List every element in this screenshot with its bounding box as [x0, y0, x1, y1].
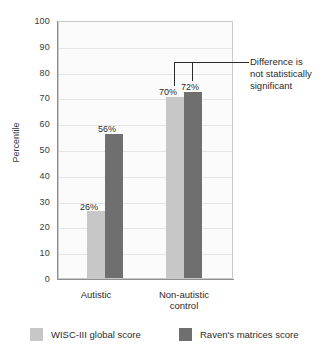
- gridline-10: [59, 254, 232, 255]
- bracket-drop-left: [174, 62, 175, 86]
- y-axis-line: [57, 21, 58, 280]
- plot-area: [58, 21, 233, 279]
- annotation-line-1: Difference is: [250, 56, 328, 68]
- gridline-20: [59, 228, 232, 229]
- category-label-control: Non-autistic control: [142, 289, 226, 311]
- y-tick-10: 10: [8, 249, 50, 258]
- bar-control-wisc: [166, 97, 184, 278]
- gridline-40: [59, 177, 232, 178]
- bar-value-control-ravens: 72%: [181, 83, 199, 92]
- y-tick-80: 80: [8, 69, 50, 78]
- bar-control-ravens: [184, 92, 202, 278]
- legend-swatch-wisc-icon: [30, 328, 43, 341]
- y-tick-70: 70: [8, 94, 50, 103]
- legend: WISC-III global score Raven's matrices s…: [30, 328, 320, 346]
- y-axis-label: Percentile: [12, 108, 21, 178]
- gridline-90: [59, 48, 232, 49]
- bar-group-autistic: [87, 22, 123, 278]
- y-tick-30: 30: [8, 198, 50, 207]
- bar-autistic-wisc: [87, 211, 105, 278]
- legend-label-ravens: Raven's matrices score: [200, 328, 298, 341]
- significance-annotation: Difference is not statistically signific…: [250, 56, 328, 92]
- y-tick-90: 90: [8, 43, 50, 52]
- bar-value-autistic-ravens: 56%: [98, 125, 116, 134]
- legend-item-wisc[interactable]: WISC-III global score: [30, 328, 141, 341]
- y-tick-0: 0: [8, 275, 50, 284]
- percentile-bar-chart: 100 90 80 70 60 50 40 30 20 10 0 Percent…: [0, 0, 328, 358]
- bar-value-autistic-wisc: 26%: [80, 203, 98, 212]
- legend-label-wisc: WISC-III global score: [51, 328, 141, 341]
- y-tick-100: 100: [8, 17, 50, 26]
- legend-item-ravens[interactable]: Raven's matrices score: [179, 328, 298, 341]
- category-label-autistic: Autistic: [56, 289, 136, 300]
- y-tick-20: 20: [8, 223, 50, 232]
- legend-swatch-ravens-icon: [179, 328, 192, 341]
- bracket-horizontal: [174, 62, 249, 63]
- gridline-80: [59, 74, 232, 75]
- gridline-50: [59, 151, 232, 152]
- gridline-60: [59, 125, 232, 126]
- gridline-70: [59, 99, 232, 100]
- bar-value-control-wisc: 70%: [159, 88, 177, 97]
- bar-group-control: [166, 22, 202, 278]
- annotation-line-3: significant: [250, 80, 328, 92]
- bracket-drop-right: [192, 62, 193, 81]
- bar-autistic-ravens: [105, 134, 123, 279]
- annotation-line-2: not statistically: [250, 68, 328, 80]
- x-axis-line: [57, 279, 234, 280]
